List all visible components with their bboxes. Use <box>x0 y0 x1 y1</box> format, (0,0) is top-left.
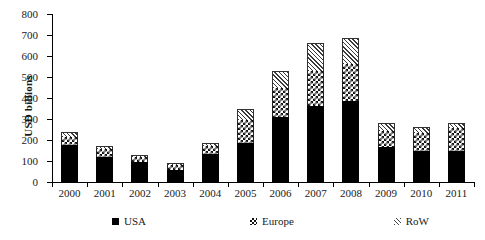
stacked-bar[interactable] <box>202 143 219 182</box>
solid-black-square-icon <box>112 218 119 225</box>
x-tick-label: 2007 <box>305 187 327 199</box>
y-tick-label: 0 <box>33 176 39 188</box>
bar-segment-europe <box>307 71 324 107</box>
bar-segment-europe <box>272 88 289 117</box>
x-tick <box>474 182 475 187</box>
bar-slot <box>122 14 157 182</box>
x-tick-label: 2006 <box>270 187 292 199</box>
y-tick-label: 400 <box>22 92 39 104</box>
stacked-bar[interactable] <box>307 43 324 182</box>
bar-slot <box>333 14 368 182</box>
checkerboard-square-icon <box>250 218 257 225</box>
bar-segment-usa <box>61 145 78 182</box>
hatched-square-icon <box>394 218 401 225</box>
x-axis-tick-labels: 2000200120022003200420052006200720082009… <box>52 187 474 203</box>
bar-segment-row <box>237 109 254 121</box>
bar-segment-usa <box>378 147 395 182</box>
y-tick-label: 800 <box>22 8 39 20</box>
bar-slot <box>369 14 404 182</box>
bar-segment-europe <box>237 120 254 143</box>
x-tick-label: 2011 <box>446 187 468 199</box>
bar-segment-europe <box>96 149 113 156</box>
y-tick-label: 600 <box>22 50 39 62</box>
legend-item-label: Europe <box>262 215 294 227</box>
stacked-bar[interactable] <box>342 38 359 182</box>
bar-segment-row <box>307 43 324 70</box>
stacked-bar[interactable] <box>96 146 113 182</box>
legend-item-label: RoW <box>406 215 429 227</box>
bar-segment-europe <box>378 131 395 148</box>
x-tick-label: 2003 <box>164 187 186 199</box>
bar-segment-europe <box>61 137 78 145</box>
legend-item-row[interactable]: RoW <box>394 215 429 227</box>
bar-segment-europe <box>448 128 465 150</box>
stacked-bar-chart: USD billions 0100200300400500600700800 2… <box>0 0 485 240</box>
y-tick-label: 700 <box>22 29 39 41</box>
bar-segment-europe <box>342 64 359 101</box>
stacked-bar[interactable] <box>378 123 395 182</box>
bar-segment-usa <box>167 170 184 182</box>
x-tick-label: 2002 <box>129 187 151 199</box>
bar-segment-usa <box>96 157 113 182</box>
bar-segment-europe <box>413 133 430 151</box>
y-tick-label: 300 <box>22 113 39 125</box>
bar-slot <box>158 14 193 182</box>
stacked-bar[interactable] <box>167 163 184 182</box>
y-tick-label: 100 <box>22 155 39 167</box>
bar-segment-usa <box>272 117 289 182</box>
bar-slot <box>263 14 298 182</box>
x-tick-label: 2001 <box>94 187 116 199</box>
stacked-bar[interactable] <box>61 132 78 182</box>
bar-segment-usa <box>237 143 254 182</box>
bar-segment-usa <box>131 162 148 182</box>
stacked-bar[interactable] <box>131 155 148 182</box>
bar-slot <box>404 14 439 182</box>
bar-segment-usa <box>413 151 430 183</box>
bar-segment-usa <box>342 101 359 182</box>
y-tick-label: 500 <box>22 71 39 83</box>
x-tick-label: 2009 <box>375 187 397 199</box>
bar-segment-usa <box>307 106 324 182</box>
plot-area: 0100200300400500600700800 <box>52 14 474 182</box>
legend-item-europe[interactable]: Europe <box>250 215 294 227</box>
legend-item-usa[interactable]: USA <box>112 215 146 227</box>
x-tick-label: 2000 <box>59 187 81 199</box>
bar-slot <box>298 14 333 182</box>
chart-legend: USAEuropeRoW <box>52 215 474 227</box>
bar-group <box>52 14 474 182</box>
bar-slot <box>439 14 474 182</box>
bar-segment-europe <box>202 146 219 153</box>
bar-slot <box>228 14 263 182</box>
bar-segment-row <box>342 38 359 64</box>
x-tick-label: 2010 <box>410 187 432 199</box>
x-tick-label: 2004 <box>199 187 221 199</box>
stacked-bar[interactable] <box>237 109 254 182</box>
bar-segment-row <box>272 71 289 88</box>
stacked-bar[interactable] <box>413 127 430 182</box>
stacked-bar[interactable] <box>448 123 465 182</box>
x-tick-label: 2008 <box>340 187 362 199</box>
bar-slot <box>52 14 87 182</box>
legend-item-label: USA <box>124 215 146 227</box>
bar-slot <box>87 14 122 182</box>
x-tick-label: 2005 <box>234 187 256 199</box>
bar-slot <box>193 14 228 182</box>
stacked-bar[interactable] <box>272 71 289 182</box>
bar-segment-usa <box>202 154 219 182</box>
bar-segment-usa <box>448 151 465 183</box>
y-tick-label: 200 <box>22 134 39 146</box>
bar-segment-row <box>378 123 395 130</box>
